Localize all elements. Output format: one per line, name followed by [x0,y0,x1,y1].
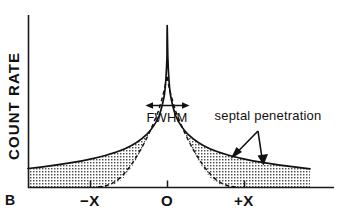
fwhm-label: FWHM [146,110,187,125]
panel-label: B [5,192,15,208]
fwhm-arrow-head-left [146,102,154,108]
count-rate-figure: −X O +X COUNT RATE B FWHM septal penetra… [0,0,339,217]
x-tick-label-zero: O [161,192,173,209]
x-tick-label-minus-x: −X [80,192,100,209]
shaded-septal-regions [28,125,312,188]
fwhm-arrow-head-right [182,102,190,108]
septal-penetration-label: septal penetration [215,108,322,123]
measured-profile-curve [28,26,310,169]
y-axis-label: COUNT RATE [5,52,22,160]
septal-leader-line-right [258,131,262,158]
septal-penetration-area-right [180,125,312,188]
septal-penetration-area-left [28,125,158,188]
x-tick-label-plus-x: +X [234,192,254,209]
fwhm-annotation: FWHM [146,102,190,125]
figure-container: −X O +X COUNT RATE B FWHM septal penetra… [0,0,339,217]
